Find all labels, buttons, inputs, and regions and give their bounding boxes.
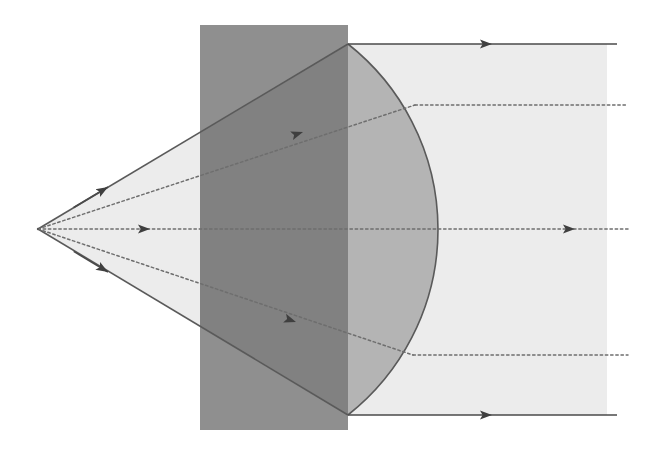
optics-ray-diagram	[0, 0, 659, 453]
point-source-marker	[37, 228, 39, 230]
diagram-canvas	[0, 0, 659, 453]
